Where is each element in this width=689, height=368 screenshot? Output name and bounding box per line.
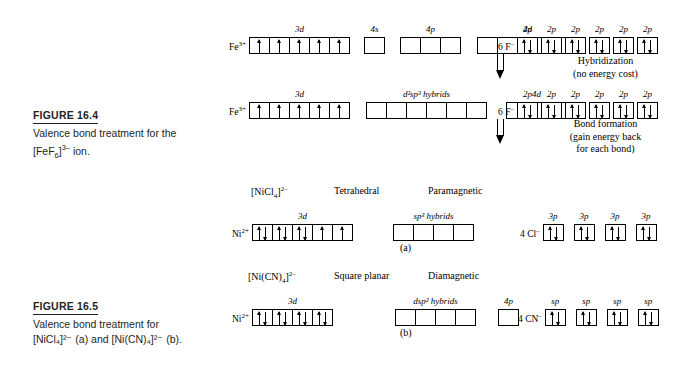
electron-arrow-up	[643, 227, 644, 240]
orbital-label-4p: 4p	[426, 25, 435, 34]
orbital-box	[386, 102, 407, 119]
fef6-row1-ion-label: Fe3+	[229, 41, 249, 54]
electron-arrow-up	[342, 227, 343, 240]
electron-arrow-up	[524, 40, 525, 53]
electron-arrow-down	[285, 312, 286, 325]
orbital-box	[613, 102, 634, 119]
orbital-box	[466, 102, 487, 119]
ligand-orbital-unit: 2p	[541, 25, 562, 54]
electron-arrow-up	[299, 105, 300, 118]
fef6-row2-ligand-diagram: 6 F– 2p 2p 2p 2p 2p 2p	[498, 90, 658, 119]
orbital-boxes-dsp2	[395, 309, 476, 326]
orbital-label-2p: 2p	[643, 90, 652, 99]
orbital-label-3d: 3d	[298, 212, 307, 221]
electron-arrow-up	[339, 105, 340, 118]
electron-arrow-down	[530, 40, 531, 53]
electron-arrow-up	[644, 40, 645, 53]
electron-arrow-up	[319, 40, 320, 53]
orbital-box	[574, 224, 595, 241]
electron-arrow-down	[626, 40, 627, 53]
bond-formation-line-2: (gain energy back	[528, 131, 683, 144]
ligand-orbital-unit: 2p	[565, 25, 586, 54]
hybridization-line-2: (no energy cost)	[528, 68, 683, 81]
electron-arrow-up	[550, 227, 551, 240]
orbital-boxes-3d	[249, 102, 350, 119]
orbital-box	[613, 37, 634, 54]
fef6-row2-ligand-count: 6 F–	[498, 106, 517, 119]
electron-arrow-up	[548, 40, 549, 53]
orbital-label-2p: 2p	[619, 25, 628, 34]
orbital-box	[543, 224, 564, 241]
nicl4-geometry-label: Tetrahedral	[334, 186, 379, 196]
fef6-row1-ligand-diagram: 6 F– 2p 2p 2p 2p 2p 2p	[498, 25, 658, 54]
orbital-box	[636, 224, 657, 241]
orbital-box	[309, 102, 330, 119]
orbital-label-2p: 2p	[643, 25, 652, 34]
orbital-boxes-d2sp3	[366, 102, 487, 119]
ligand-orbital-unit: 3p	[543, 212, 564, 241]
orbital-label-2p: 2p	[571, 25, 580, 34]
electron-arrow-down	[530, 105, 531, 118]
electron-arrow-down	[649, 227, 650, 240]
nicn4-orbital-diagram: Ni2+ 3d dsp² hybrids 4p	[232, 297, 519, 326]
orbital-box	[426, 102, 447, 119]
orbital-box	[406, 102, 427, 119]
orbital-box	[366, 102, 387, 119]
figure-16-5-text-line-2: [NiCl₄]²⁻ (a) and [Ni(CN)₄]²⁻ (b).	[33, 332, 219, 347]
electron-arrow-up	[299, 312, 300, 325]
orbital-box	[477, 37, 498, 54]
electron-arrow-down	[305, 312, 306, 325]
figure-16-4-text-line-1: Valence bond treatment for the	[33, 126, 219, 141]
electron-arrow-up	[259, 105, 260, 118]
orbital-box	[312, 224, 333, 241]
electron-arrow-up	[279, 227, 280, 240]
orbital-box	[272, 309, 293, 326]
electron-arrow-up	[339, 40, 340, 53]
fef6-row2-group-3d: 3d	[249, 90, 350, 119]
orbital-box	[393, 224, 414, 241]
orbital-box	[440, 37, 461, 54]
orbital-box	[541, 37, 562, 54]
electron-arrow-down	[626, 105, 627, 118]
ligand-orbital-unit: 2p	[517, 25, 538, 54]
electron-arrow-up	[299, 40, 300, 53]
figure-16-4-label: FIGURE 16.4	[33, 108, 98, 124]
ligand-orbital-unit: sp	[545, 297, 566, 326]
orbital-box	[332, 224, 353, 241]
orbital-label-sp: sp	[582, 297, 590, 306]
hybridization-annotation: Hybridization (no energy cost)	[528, 55, 683, 80]
orbital-boxes-4p	[498, 309, 519, 326]
orbital-box	[605, 224, 626, 241]
orbital-box	[607, 309, 628, 326]
electron-arrow-up	[279, 105, 280, 118]
bond-formation-line-1: Bond formation	[528, 118, 683, 131]
orbital-box	[329, 102, 350, 119]
ligand-orbital-unit: 2p	[589, 90, 610, 119]
electron-arrow-down	[305, 227, 306, 240]
bond-formation-down-arrow-icon	[496, 119, 505, 145]
orbital-box	[637, 37, 658, 54]
electron-arrow-down	[589, 312, 590, 325]
orbital-box	[435, 309, 456, 326]
electron-arrow-down	[620, 312, 621, 325]
electron-arrow-down	[578, 105, 579, 118]
electron-arrow-down	[651, 312, 652, 325]
orbital-label-3p: 3p	[642, 212, 651, 221]
electron-arrow-up	[645, 312, 646, 325]
orbital-label-3d: 3d	[295, 25, 304, 34]
orbital-box	[517, 37, 538, 54]
orbital-box	[413, 224, 434, 241]
ligand-orbital-unit: sp	[638, 297, 659, 326]
ligand-orbital-unit: 2p	[589, 25, 610, 54]
electron-arrow-down	[558, 312, 559, 325]
orbital-box	[269, 102, 290, 119]
orbital-box	[637, 102, 658, 119]
electron-arrow-up	[259, 40, 260, 53]
orbital-boxes-4p	[400, 37, 461, 54]
figure-16-4-caption: FIGURE 16.4 Valence bond treatment for t…	[33, 108, 219, 163]
orbital-box	[309, 37, 330, 54]
electron-arrow-up	[319, 312, 320, 325]
nicl4-group-sp3: sp³ hybrids	[393, 212, 474, 241]
nicl4-ligand-orbitals: 3p 3p 3p 3p	[543, 212, 657, 241]
electron-arrow-up	[612, 227, 613, 240]
